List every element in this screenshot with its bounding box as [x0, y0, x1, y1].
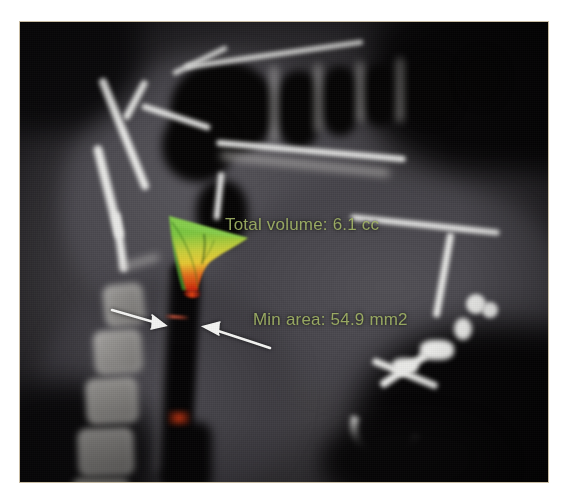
cbct-sagittal-image: Total volume: 6.1 cc Min area: 54.9 mm2	[20, 22, 548, 482]
min-area-label: Min area: 54.9 mm2	[253, 310, 408, 330]
ethmoid-septum-bone-2	[316, 64, 320, 132]
airway-column-lower	[170, 422, 212, 482]
sphenoid-wall-bone	[398, 58, 402, 122]
vertebra-c1	[102, 282, 146, 328]
screenshot-viewport: Total volume: 6.1 cc Min area: 54.9 mm2	[0, 0, 573, 501]
posterior-tooth-root-2	[482, 302, 498, 318]
ethmoid-septum-bone-3	[358, 62, 362, 122]
ethmoid-septum-bone	[272, 66, 276, 142]
posterior-tooth-root-3	[454, 318, 472, 340]
lower-airway-red-marker	[168, 410, 190, 426]
scan-photo-frame: Total volume: 6.1 cc Min area: 54.9 mm2	[19, 21, 549, 483]
vertebra-c3	[85, 377, 139, 426]
vertebra-c5	[72, 478, 130, 482]
ethmoid-air-cell-2	[320, 66, 360, 136]
ethmoid-air-cell-3	[362, 64, 398, 126]
frontal-air-cell	[460, 52, 504, 104]
vertebra-c4	[77, 427, 135, 477]
sphenoid-sinus-cavity	[402, 58, 460, 124]
vertebra-c2	[93, 328, 144, 375]
total-volume-label: Total volume: 6.1 cc	[225, 215, 379, 235]
